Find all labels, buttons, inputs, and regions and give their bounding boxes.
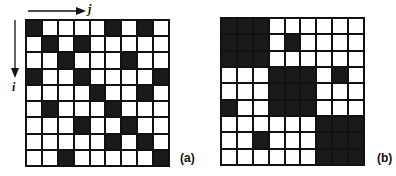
matrix-cell	[317, 35, 331, 49]
matrix-cell	[301, 68, 315, 82]
matrix-cell	[238, 52, 252, 66]
matrix-cell	[270, 35, 284, 49]
matrix-cell	[91, 70, 105, 84]
matrix-cell	[254, 133, 268, 147]
matrix-cell	[138, 135, 152, 149]
matrix-cell	[91, 21, 105, 35]
matrix-cell	[106, 21, 120, 35]
matrix-cell	[333, 52, 347, 66]
matrix-cell	[333, 101, 347, 115]
matrix-cell	[122, 151, 136, 165]
matrix-cell	[238, 117, 252, 131]
matrix-cell	[286, 133, 300, 147]
matrix-cell	[349, 133, 363, 147]
matrix-cell	[122, 53, 136, 67]
matrix-cell	[349, 150, 363, 164]
matrix-cell	[138, 21, 152, 35]
matrix-cell	[254, 117, 268, 131]
matrix-cell	[43, 118, 57, 132]
matrix-cell	[317, 150, 331, 164]
matrix-cell	[238, 35, 252, 49]
matrix-cell	[286, 35, 300, 49]
matrix-cell	[254, 84, 268, 98]
matrix-cell	[301, 84, 315, 98]
matrix-cell	[122, 102, 136, 116]
matrix-cell	[106, 135, 120, 149]
matrix-cell	[75, 118, 89, 132]
matrix-cell	[138, 70, 152, 84]
matrix-cell	[286, 52, 300, 66]
matrix-cell	[138, 53, 152, 67]
row-axis-label: i	[12, 80, 15, 95]
matrix-cell	[222, 35, 236, 49]
matrix-cell	[301, 52, 315, 66]
matrix-cell	[270, 133, 284, 147]
matrix-cell	[27, 118, 41, 132]
matrix-cell	[301, 150, 315, 164]
matrix-cell	[349, 68, 363, 82]
matrix-cell	[222, 150, 236, 164]
matrix-cell	[270, 84, 284, 98]
matrix-cell	[122, 118, 136, 132]
matrix-cell	[138, 118, 152, 132]
matrix-cell	[59, 86, 73, 100]
matrix-cell	[91, 135, 105, 149]
matrix-cell	[59, 21, 73, 35]
matrix-cell	[154, 70, 168, 84]
matrix-cell	[222, 19, 236, 33]
column-axis-label: j	[88, 2, 91, 17]
matrix-cell	[122, 70, 136, 84]
matrix-cell	[254, 68, 268, 82]
matrix-cell	[43, 53, 57, 67]
matrix-cell	[254, 35, 268, 49]
matrix-cell	[270, 19, 284, 33]
matrix-cell	[154, 135, 168, 149]
matrix-cell	[222, 117, 236, 131]
matrix-cell	[333, 68, 347, 82]
matrix-cell	[333, 150, 347, 164]
matrix-cell	[238, 133, 252, 147]
matrix-cell	[286, 101, 300, 115]
matrix-cell	[59, 151, 73, 165]
matrix-cell	[91, 86, 105, 100]
matrix-cell	[27, 86, 41, 100]
matrix-cell	[349, 117, 363, 131]
matrix-cell	[349, 52, 363, 66]
matrix-cell	[75, 53, 89, 67]
matrix-cell	[154, 53, 168, 67]
matrix-cell	[286, 68, 300, 82]
matrix-cell	[333, 133, 347, 147]
matrix-cell	[333, 19, 347, 33]
matrix-cell	[270, 101, 284, 115]
row-direction-arrow	[10, 20, 20, 80]
matrix-cell	[301, 101, 315, 115]
matrix-cell	[91, 53, 105, 67]
matrix-cell	[75, 135, 89, 149]
matrix-cell	[122, 86, 136, 100]
matrix-cell	[154, 21, 168, 35]
matrix-cell	[59, 102, 73, 116]
matrix-cell	[301, 19, 315, 33]
matrix-cell	[138, 151, 152, 165]
matrix-cell	[43, 37, 57, 51]
matrix-cell	[43, 70, 57, 84]
matrix-cell	[59, 37, 73, 51]
matrix-cell	[43, 86, 57, 100]
matrix-cell	[122, 37, 136, 51]
column-direction-arrow	[28, 6, 88, 16]
matrix-cell	[286, 84, 300, 98]
matrix-cell	[27, 21, 41, 35]
matrix-cell	[349, 84, 363, 98]
matrix-cell	[317, 19, 331, 33]
matrix-cell	[154, 37, 168, 51]
matrix-cell	[349, 101, 363, 115]
matrix-cell	[270, 117, 284, 131]
matrix-cell	[75, 151, 89, 165]
matrix-cell	[333, 117, 347, 131]
matrix-cell	[106, 86, 120, 100]
matrix-cell	[154, 118, 168, 132]
matrix-cell	[106, 151, 120, 165]
matrix-cell	[254, 19, 268, 33]
matrix-cell	[222, 84, 236, 98]
matrix-cell	[106, 102, 120, 116]
